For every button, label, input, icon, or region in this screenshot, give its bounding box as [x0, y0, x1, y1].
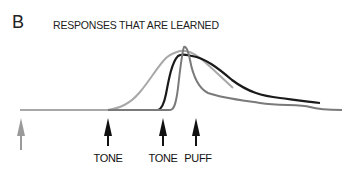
marker-gray-arrow-icon — [17, 118, 25, 150]
marker-tone2-arrow-icon — [159, 118, 167, 146]
marker-tone-arrow-icon — [104, 118, 112, 146]
marker-label-tone-2: TONE — [148, 152, 177, 164]
response-curves-plot — [0, 0, 355, 173]
marker-label-puff: PUFF — [184, 152, 212, 164]
curve-black — [108, 54, 320, 110]
curve-light-gray — [108, 51, 233, 110]
marker-puff-arrow-icon — [192, 118, 200, 146]
marker-label-tone: TONE — [93, 152, 122, 164]
